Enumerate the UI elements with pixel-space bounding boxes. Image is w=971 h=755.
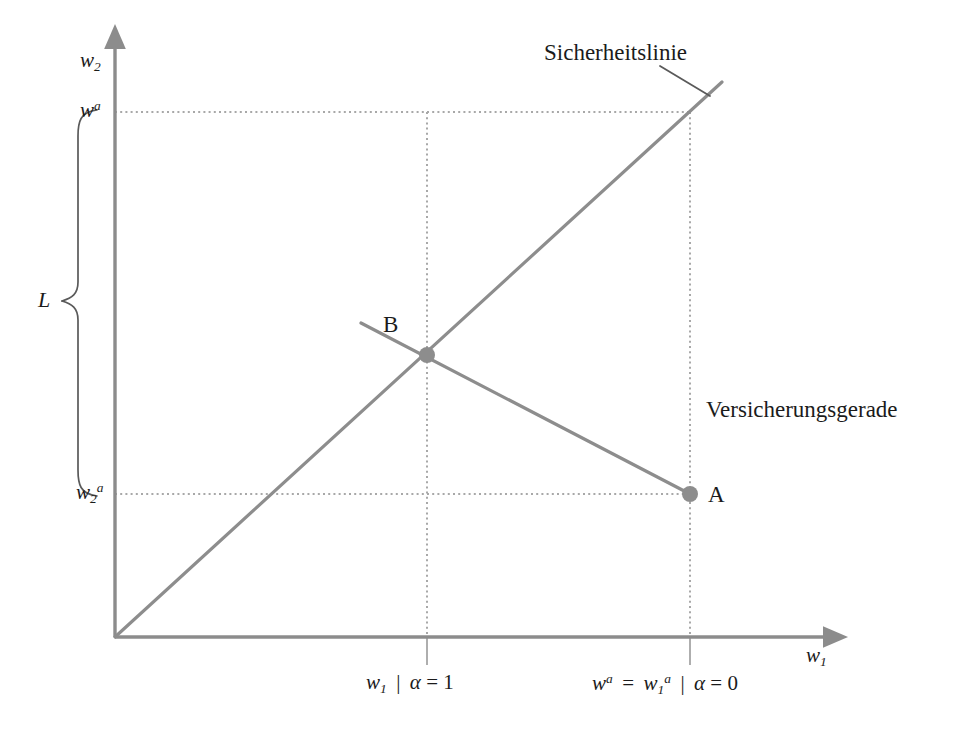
brace-label-l: L [38, 289, 50, 311]
y-tick-label-w2a-sub: 2 [90, 491, 97, 506]
data-lines [115, 82, 722, 637]
point-label-b: B [383, 313, 398, 336]
security-line-sicherheitslinie [115, 82, 722, 637]
insurance-line-versicherungsgerade [361, 323, 690, 494]
y-axis-label: w2 [80, 50, 101, 73]
diagram-svg [0, 0, 971, 755]
point-label-a: A [708, 483, 725, 506]
annotation-versicherungsgerade: Versicherungsgerade [706, 398, 898, 421]
y-tick-label-w2a-sup: a [97, 480, 104, 495]
y-tick-label-wa-base: w [80, 98, 94, 122]
y-axis-label-sub: 2 [94, 59, 101, 74]
y-tick-label-wa: wa [80, 99, 101, 121]
x-axis-label: w1 [806, 645, 827, 668]
point-marker-b [419, 347, 435, 363]
leader-line-sicherheitslinie [660, 66, 710, 96]
x-axis-ticks [427, 637, 690, 665]
economics-diagram-canvas: w2 w1 wa w2a L w1 | α = 1 wa = w1a | α =… [0, 0, 971, 755]
x-tick-label-a: wa = w1a | α = 0 [592, 672, 738, 696]
y-axis-label-base: w [80, 48, 94, 72]
annotation-sicherheitslinie: Sicherheitslinie [544, 41, 687, 64]
point-marker-a [682, 486, 698, 502]
x-axis-label-base: w [806, 643, 820, 667]
x-tick-label-b-base: w [366, 670, 380, 694]
x-tick-label-b: w1 | α = 1 [366, 672, 454, 695]
y-tick-label-w2a: w2a [76, 481, 103, 505]
brace-l [62, 110, 97, 496]
x-axis-label-sub: 1 [820, 654, 827, 669]
axes [115, 44, 828, 637]
y-tick-label-w2a-base: w [76, 480, 90, 504]
y-tick-label-wa-sup: a [94, 98, 101, 113]
